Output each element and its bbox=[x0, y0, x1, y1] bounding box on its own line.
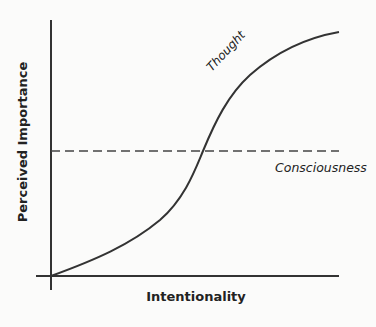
y-axis-label: Perceived Importance bbox=[15, 62, 30, 223]
x-axis-label: Intentionality bbox=[0, 289, 376, 304]
thought-curve bbox=[51, 32, 339, 276]
consciousness-label: Consciousness bbox=[275, 160, 367, 175]
